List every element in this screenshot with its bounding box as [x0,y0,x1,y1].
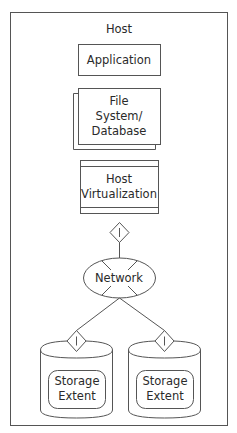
file-system-label: File System/ Database [92,94,147,139]
host-virtualization-label-line1: Host [81,172,157,187]
host-virtualization-label: Host Virtualization [81,172,157,202]
host-virtualization-label-line2: Virtualization [81,187,157,202]
storage-extent-right-line2: Extent [143,389,188,404]
storage-extent-left-label: Storage Extent [55,374,100,404]
host-label: Host [106,22,132,37]
connector-line [77,298,120,331]
storage-extent-left-line1: Storage [55,374,100,389]
storage-extent-right-line1: Storage [143,374,188,389]
network-label: Network [94,271,144,286]
network-cross-line [128,261,137,270]
network-cross-line [102,286,111,295]
host-diagram: Host Application File System/ Database H… [0,0,237,433]
connector-line [120,298,165,331]
storage-extent-right-label: Storage Extent [143,374,188,404]
host-container-frame [11,13,228,426]
file-system-label-line3: Database [92,124,147,139]
application-label: Application [87,53,151,68]
file-system-label-line1: File [92,94,147,109]
network-cross-line [102,261,111,270]
storage-extent-left-line2: Extent [55,389,100,404]
network-cross-line [128,286,137,295]
file-system-label-line2: System/ [92,109,147,124]
